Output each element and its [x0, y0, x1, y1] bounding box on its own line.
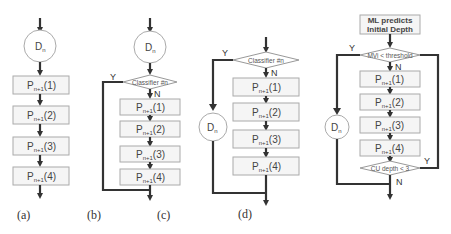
panel-a: Dn Pn+1(1) Pn+1(2) Pn+1(3) Pn+1(4) (a): [13, 18, 69, 222]
flowchart-diagram: Dn Pn+1(1) Pn+1(2) Pn+1(3) Pn+1(4) (a) D…: [0, 0, 451, 234]
svg-text:Y: Y: [424, 156, 430, 166]
caption-a: (a): [17, 208, 30, 222]
svg-text:Classifier #n: Classifier #n: [248, 57, 284, 64]
svg-text:Y: Y: [110, 72, 116, 82]
svg-text:N: N: [396, 177, 403, 187]
caption-b: (b): [87, 208, 101, 222]
svg-text:MVi < threshold: MVi < threshold: [367, 52, 413, 59]
svg-text:N: N: [271, 68, 278, 78]
panel-d: Classifier #n Y Dn N Pn+1(1) Pn+1(2) Pn+…: [199, 37, 299, 221]
svg-text:N: N: [154, 89, 161, 99]
svg-text:ML predicts: ML predicts: [368, 16, 413, 25]
svg-text:Classifier #n: Classifier #n: [132, 79, 168, 86]
panel-e: ML predicts Initial Depth MVi < threshol…: [325, 15, 438, 197]
svg-text:CU depth < 3: CU depth < 3: [371, 165, 410, 173]
svg-text:Y: Y: [222, 48, 228, 58]
svg-text:Initial Depth: Initial Depth: [367, 25, 413, 34]
caption-c: (c): [157, 208, 170, 222]
caption-d: (d): [238, 207, 252, 221]
panel-c: Dn Classifier #n Y N Pn+1(1) Pn+1(2) Pn+…: [87, 18, 180, 222]
svg-text:Y: Y: [349, 43, 355, 53]
